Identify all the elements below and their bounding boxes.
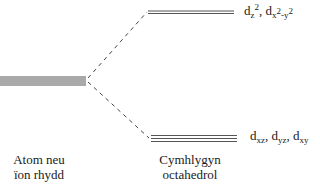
t2g-levels [151,136,237,142]
lower-orbital-label: dxz, dyz, dxy [250,128,309,145]
octahedral-complex-label: Cymhlygyn octahedrol [150,152,230,182]
connector-dashes [88,12,149,138]
free-ion-label: Atom neu ïon rhydd [4,152,74,182]
eg-levels [148,11,234,14]
free-ion-levels [0,77,86,85]
upper-orbital-label: dz2, dx2-y2 [244,2,293,20]
